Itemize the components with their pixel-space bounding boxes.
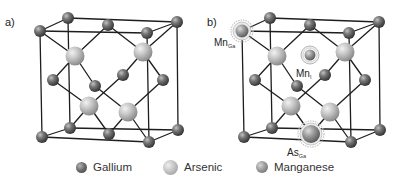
gallium-atom: [141, 27, 153, 39]
mn-ga-label: MnGa: [214, 37, 236, 49]
panel-b-label: b): [207, 16, 217, 28]
legend-item-gallium: Gallium: [76, 157, 132, 177]
arsenic-atom: [268, 47, 287, 66]
arsenic-atom: [134, 43, 153, 62]
gallium-atom: [117, 69, 129, 81]
gallium-atom: [374, 124, 386, 136]
gallium-atom: [102, 19, 114, 31]
gallium-atom: [238, 131, 250, 143]
gallium-swatch-icon: [76, 162, 87, 173]
gallium-atom: [36, 131, 48, 143]
panel-a-label: a): [5, 16, 15, 28]
gallium-atom: [345, 136, 357, 148]
manganese-atom: [305, 50, 316, 61]
panel-b: b): [207, 12, 386, 159]
gallium-atom: [359, 74, 371, 86]
gallium-atom: [291, 80, 303, 92]
gallium-atom: [103, 128, 115, 140]
gallium-atom: [373, 16, 385, 28]
arsenic-swatch-icon: [163, 160, 178, 175]
gallium-atom: [249, 74, 261, 86]
legend-item-arsenic: Arsenic: [163, 157, 222, 177]
gallium-atom: [343, 27, 355, 39]
gallium-atom: [143, 136, 155, 148]
legend-label: Manganese: [274, 161, 334, 173]
mn-interstitial-defect: [301, 46, 319, 64]
mn-ga-defect: [231, 20, 253, 42]
arsenic-atom: [119, 103, 138, 122]
arsenic-atom: [66, 47, 85, 66]
arsenic-atom: [321, 103, 340, 122]
gallium-atom: [171, 16, 183, 28]
gallium-atom: [34, 25, 46, 37]
mn-i-label: MnI: [296, 68, 312, 80]
arsenic-atom: [80, 97, 99, 116]
manganese-atom: [236, 25, 249, 38]
zincblende-crystal-figure: a) b): [0, 0, 407, 183]
legend-label: Gallium: [93, 161, 132, 173]
gallium-atom: [157, 74, 169, 86]
gallium-atom: [172, 124, 184, 136]
gallium-atom: [319, 69, 331, 81]
arsenic-antisite-atom: [302, 125, 320, 143]
arsenic-atom: [336, 43, 355, 62]
as-ga-defect: [298, 121, 324, 147]
legend-label: Arsenic: [184, 161, 222, 173]
arsenic-atom: [282, 97, 301, 116]
gallium-atom: [89, 80, 101, 92]
legend-item-manganese: Manganese: [256, 157, 334, 177]
gallium-atom: [304, 19, 316, 31]
gallium-atom: [47, 74, 59, 86]
manganese-swatch-icon: [256, 161, 268, 173]
panel-a: a): [5, 12, 184, 148]
legend: Gallium Arsenic Manganese: [0, 157, 407, 177]
gallium-atom: [64, 122, 76, 134]
gallium-atom: [264, 12, 276, 24]
gallium-atom: [62, 12, 74, 24]
gallium-atom: [266, 122, 278, 134]
